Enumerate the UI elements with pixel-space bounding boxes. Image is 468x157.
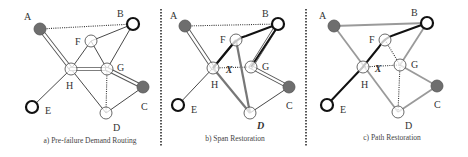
node-B-circle: [127, 18, 139, 30]
node-H-circle: [207, 62, 219, 74]
node-A-circle: [34, 23, 46, 35]
node-G-circle: [394, 59, 406, 71]
node-D-circle: [244, 107, 256, 119]
node-G-circle: [245, 61, 257, 73]
node-label-D: D: [256, 120, 264, 131]
node-label-F: F: [220, 34, 226, 45]
node-label-A: A: [319, 10, 327, 21]
node-F-circle: [230, 34, 242, 46]
node-label-B: B: [117, 8, 124, 19]
node-E-circle: [321, 99, 333, 111]
node-E-circle: [172, 99, 184, 111]
node-label-D: D: [113, 122, 120, 133]
node-label-F: F: [369, 34, 375, 45]
node-label-A: A: [24, 11, 32, 22]
node-label-C: C: [141, 101, 148, 112]
node-A-circle: [328, 20, 340, 32]
node-label-A: A: [170, 10, 178, 21]
failure-x-mark: X: [374, 63, 382, 74]
node-label-G: G: [117, 62, 124, 73]
node-H-circle: [357, 61, 369, 73]
caption-b: b) Span Restoration: [205, 134, 265, 143]
caption-c: c) Path Restoration: [363, 133, 421, 142]
node-label-F: F: [75, 36, 81, 47]
node-label-H: H: [211, 79, 218, 90]
node-C-circle: [137, 81, 149, 93]
node-H-circle: [65, 63, 77, 75]
node-B-circle: [421, 17, 433, 29]
node-label-D: D: [405, 120, 412, 131]
node-label-G: G: [411, 59, 418, 70]
node-D-circle: [100, 107, 112, 119]
node-B-circle: [272, 18, 284, 30]
node-E-circle: [26, 101, 38, 113]
node-label-B: B: [262, 8, 269, 19]
node-label-C: C: [434, 99, 441, 110]
node-label-G: G: [262, 61, 269, 72]
node-label-E: E: [45, 105, 51, 116]
node-label-B: B: [411, 7, 418, 18]
node-label-H: H: [66, 80, 73, 91]
node-label-C: C: [286, 100, 293, 111]
node-G-circle: [101, 63, 113, 75]
node-F-circle: [379, 34, 391, 46]
node-D-circle: [392, 106, 404, 118]
restoration-diagram: ABFGHCEDa) Pre-failure Demand Routing AB…: [0, 0, 468, 157]
node-label-E: E: [340, 104, 346, 115]
caption-a: a) Pre-failure Demand Routing: [43, 136, 136, 145]
node-label-H: H: [361, 79, 368, 90]
node-F-circle: [85, 35, 97, 47]
failure-x-mark: X: [225, 64, 233, 75]
node-label-E: E: [191, 104, 197, 115]
node-A-circle: [179, 20, 191, 32]
node-C-circle: [283, 81, 295, 93]
node-C-circle: [431, 80, 443, 92]
